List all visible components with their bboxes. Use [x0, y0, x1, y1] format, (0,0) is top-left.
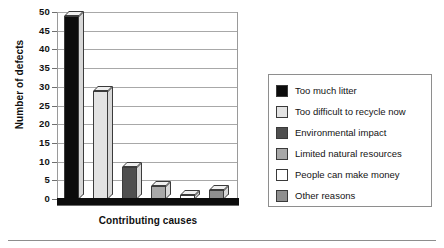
bar-front-face — [64, 16, 79, 199]
legend-swatch-icon — [276, 127, 288, 139]
legend-item-label: Too difficult to recycle now — [295, 107, 406, 117]
bar-front-face — [93, 91, 108, 199]
legend-item-label: Limited natural resources — [295, 149, 402, 159]
y-axis-tick-label: 20 — [39, 119, 50, 129]
legend-swatch-icon — [276, 148, 288, 160]
legend-item-label: Too much litter — [295, 86, 357, 96]
y-axis-tick-label: 25 — [39, 101, 50, 111]
x-axis-baseline — [57, 198, 239, 205]
legend-item[interactable]: People can make money — [276, 164, 431, 185]
bar-chart-figure: Number of defects 05101520253035404550 C… — [0, 0, 444, 248]
bar — [64, 16, 79, 199]
bar-side-face — [137, 162, 142, 199]
legend-item-label: Other reasons — [295, 191, 355, 201]
bar-side-face — [108, 86, 113, 199]
legend-item[interactable]: Environmental impact — [276, 122, 431, 143]
legend-item[interactable]: Limited natural resources — [276, 143, 431, 164]
x-axis-title: Contributing causes — [57, 215, 239, 226]
legend-item[interactable]: Too much litter — [276, 80, 431, 101]
y-axis-tick-label: 15 — [39, 138, 50, 148]
legend-item-label: People can make money — [295, 170, 400, 180]
bar-series — [57, 12, 238, 199]
x-axis-baseline-edge — [57, 205, 239, 206]
y-axis-tick-label: 10 — [39, 157, 50, 167]
y-axis-tick-label: 40 — [39, 45, 50, 55]
y-axis-tick-label: 50 — [39, 7, 50, 17]
y-axis-tick-label: 5 — [45, 176, 50, 186]
bar-side-face — [79, 11, 84, 199]
footer-divider — [8, 240, 436, 241]
legend-item-label: Environmental impact — [295, 128, 386, 138]
bar-front-face — [122, 167, 137, 199]
y-axis: 05101520253035404550 — [30, 12, 57, 199]
legend-item[interactable]: Too difficult to recycle now — [276, 101, 431, 122]
bar — [93, 91, 108, 199]
legend-swatch-icon — [276, 190, 288, 202]
y-axis-tick-label: 35 — [39, 63, 50, 73]
legend-swatch-icon — [276, 106, 288, 118]
y-axis-tick-label: 45 — [39, 26, 50, 36]
legend-swatch-icon — [276, 169, 288, 181]
chart-legend: Too much litterToo difficult to recycle … — [268, 74, 432, 207]
y-axis-tick-label: 30 — [39, 82, 50, 92]
y-axis-title: Number of defects — [14, 35, 25, 135]
bar — [122, 167, 137, 199]
y-axis-tick-label: 0 — [45, 194, 50, 204]
legend-item[interactable]: Other reasons — [276, 185, 431, 206]
legend-swatch-icon — [276, 85, 288, 97]
